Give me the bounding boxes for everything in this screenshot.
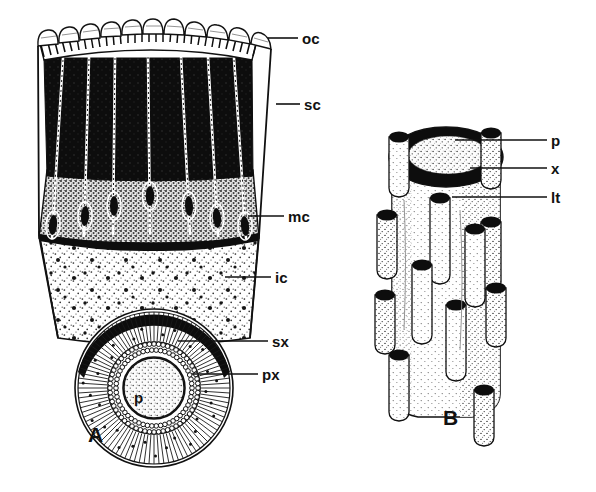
panel-a-wedge <box>38 19 271 345</box>
leaf-trace-stub <box>446 300 466 382</box>
pith-region <box>124 358 184 418</box>
leaf-trace-stub-labelled <box>430 193 450 285</box>
label-primary-xylem: px <box>262 367 280 382</box>
leaf-trace-stub <box>481 128 501 190</box>
panel-label-b: B <box>443 407 458 428</box>
leaf-trace-stub <box>375 290 395 355</box>
label-sclerenchyma: sc <box>304 97 321 112</box>
panel-label-a: A <box>88 424 103 445</box>
label-outer-cortex: oc <box>302 31 320 46</box>
label-xylem: x <box>551 161 560 176</box>
label-leaf-trace: lt <box>551 190 561 205</box>
panel-b-stem <box>375 127 506 446</box>
leaf-trace-stub <box>389 350 409 422</box>
leaf-trace-stub <box>389 132 409 198</box>
leaf-trace-stub <box>474 385 494 447</box>
label-pith: p <box>551 133 560 148</box>
figure-canvas <box>0 0 596 492</box>
label-pith-center-A: p <box>134 390 143 405</box>
label-secondary-xylem: sx <box>272 334 289 349</box>
label-inner-cortex: ic <box>275 270 288 285</box>
leaf-trace-stub <box>377 210 397 280</box>
leaf-trace-stub <box>465 224 485 308</box>
botanical-figure: ocscmcicsxpxpxltpAB <box>0 0 596 492</box>
leaf-trace-stub <box>412 260 432 345</box>
leaf-trace-stub <box>486 283 506 348</box>
label-middle-cortex: mc <box>288 209 310 224</box>
